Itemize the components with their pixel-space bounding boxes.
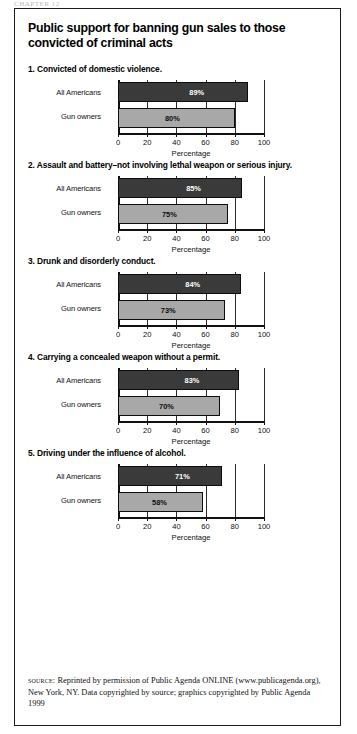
category-label: Gun owners [61,304,101,313]
x-axis-tick [235,325,236,329]
x-axis-tick [264,517,265,521]
category-label-column: All AmericansGun owners [28,369,106,421]
chart-panel: 5. Driving under the influence of alcoho… [28,448,327,541]
x-axis-tick-label: 60 [201,234,209,243]
gridline [264,80,265,133]
bar: 89% [118,82,248,102]
x-axis-title: Percentage [118,533,264,542]
bar: 80% [118,108,235,128]
bar-value-label: 58% [152,498,167,507]
x-axis-tick [176,133,177,137]
running-head: CHAPTER 12 [14,0,60,7]
x-axis-title: Percentage [118,149,264,158]
x-axis-tick-label: 0 [116,234,120,243]
x-axis-line [118,229,264,231]
bar-value-label: 83% [185,376,200,385]
x-axis-tick-label: 20 [143,330,151,339]
bar: 71% [118,466,222,486]
bar: 85% [118,178,242,198]
gridline [264,176,265,229]
bar: 75% [118,204,228,224]
category-label-column: All AmericansGun owners [28,465,106,517]
x-axis-tick-label: 40 [172,330,180,339]
chart-panel-heading: 5. Driving under the influence of alcoho… [28,448,327,458]
chart-panel-heading: 3. Drunk and disorderly conduct. [28,256,327,266]
x-axis-tick [235,517,236,521]
x-axis-tick [206,133,207,137]
x-axis-tick [176,229,177,233]
category-label-column: All AmericansGun owners [28,177,106,229]
figure-body: Public support for banning gun sales to … [15,9,340,541]
category-label: All Americans [56,280,101,289]
category-label-column: All AmericansGun owners [28,81,106,133]
x-axis-tick-label: 80 [231,234,239,243]
x-axis-line [118,517,264,519]
x-axis-tick [264,133,265,137]
x-axis-tick [206,325,207,329]
x-axis-tick-label: 40 [172,426,180,435]
chart-panel-heading: 4. Carrying a concealed weapon without a… [28,352,327,362]
x-axis-tick-label: 80 [231,138,239,147]
bar-value-label: 85% [186,184,201,193]
x-axis-tick [235,133,236,137]
x-axis-tick [176,421,177,425]
x-axis-tick [118,133,119,137]
x-axis-tick [118,421,119,425]
x-axis-tick [176,325,177,329]
x-axis-tick [206,421,207,425]
x-axis-tick-label: 20 [143,138,151,147]
source-kicker: source: [28,676,55,685]
x-axis-tick [118,325,119,329]
category-label: All Americans [56,376,101,385]
bar: 70% [118,396,220,416]
x-axis-tick [264,421,265,425]
x-axis-tick-label: 40 [172,138,180,147]
x-axis-tick-label: 60 [201,138,209,147]
x-axis-tick-label: 100 [258,522,271,531]
x-axis-tick [264,325,265,329]
category-label: Gun owners [61,400,101,409]
chart-plot-row: All AmericansGun owners84%73%02040608010… [28,273,327,349]
category-label: Gun owners [61,208,101,217]
source-note: source: Reprinted by permission of Publi… [28,675,327,709]
source-text: Reprinted by permission of Public Agenda… [28,676,321,707]
x-axis-tick [147,133,148,137]
x-axis-tick [147,421,148,425]
bar-value-label: 73% [161,306,176,315]
plot-area: 85%75%020406080100Percentage [118,177,264,229]
plot-area: 89%80%020406080100Percentage [118,81,264,133]
bar-value-label: 71% [175,472,190,481]
x-axis-title: Percentage [118,245,264,254]
x-axis-title: Percentage [118,341,264,350]
bar: 83% [118,370,239,390]
category-label: Gun owners [61,496,101,505]
x-axis-tick-label: 20 [143,522,151,531]
x-axis-tick-label: 40 [172,522,180,531]
x-axis-tick-label: 100 [258,234,271,243]
bar: 84% [118,274,241,294]
x-axis-tick-label: 80 [231,426,239,435]
chart-panel-heading: 2. Assault and battery–not involving let… [28,160,327,170]
x-axis-tick-label: 0 [116,330,120,339]
x-axis-tick-label: 40 [172,234,180,243]
x-axis-tick-label: 0 [116,138,120,147]
x-axis-line [118,325,264,327]
gridline [235,464,236,517]
chart-plot-row: All AmericansGun owners85%75%02040608010… [28,177,327,253]
x-axis-tick-label: 80 [231,330,239,339]
x-axis-tick [206,229,207,233]
x-axis-tick [147,325,148,329]
x-axis-tick-label: 100 [258,330,271,339]
x-axis-tick-label: 0 [116,522,120,531]
chart-plot-row: All AmericansGun owners83%70%02040608010… [28,369,327,445]
bar: 58% [118,492,203,512]
gridline [264,368,265,421]
x-axis-tick-label: 80 [231,522,239,531]
x-axis-line [118,133,264,135]
x-axis-tick-label: 60 [201,330,209,339]
bar-value-label: 89% [189,88,204,97]
x-axis-tick-label: 60 [201,426,209,435]
category-label: All Americans [56,472,101,481]
chart-plot-row: All AmericansGun owners89%80%02040608010… [28,81,327,157]
chart-panel: 3. Drunk and disorderly conduct.All Amer… [28,256,327,349]
